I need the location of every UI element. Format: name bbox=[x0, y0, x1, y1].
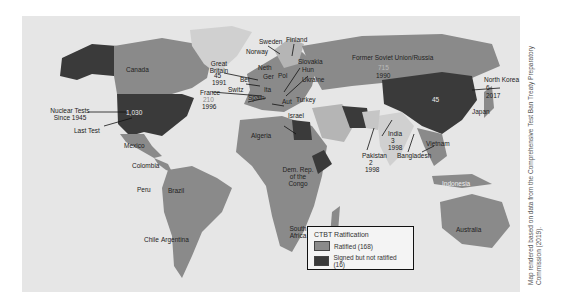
label-ita: Ita bbox=[264, 86, 271, 93]
label-algeria: Algeria bbox=[251, 132, 271, 139]
label-slovakia: Slovakia bbox=[298, 58, 323, 65]
france-count: 210 bbox=[203, 96, 214, 103]
india-year: 1998 bbox=[388, 144, 402, 151]
legend-item-signed: Signed but not ratified (16) bbox=[314, 254, 407, 268]
ratified-swatch bbox=[314, 241, 330, 251]
map-legend: CTBT Ratification Ratified (168) Signed … bbox=[307, 226, 414, 270]
label-last-test: Last Test bbox=[74, 127, 100, 134]
label-japan: Japan bbox=[472, 108, 490, 115]
label-ger: Ger bbox=[263, 73, 274, 80]
label-drc: Dem. Rep. of the Congo bbox=[280, 166, 316, 187]
label-argentina: Argentina bbox=[161, 236, 189, 243]
label-colombia: Colombia bbox=[132, 162, 159, 169]
ussr-count: 715 bbox=[378, 64, 389, 71]
map-shapes bbox=[22, 16, 520, 292]
legend-label: Signed but not ratified (16) bbox=[333, 254, 407, 268]
ussr-year: 1990 bbox=[376, 72, 390, 79]
signed-swatch bbox=[314, 256, 329, 266]
label-australia: Australia bbox=[456, 226, 481, 233]
label-spain: Spain bbox=[248, 94, 265, 101]
pakistan-year: 1998 bbox=[365, 166, 379, 173]
china-count: 45 bbox=[432, 96, 439, 103]
label-chile: Chile bbox=[144, 236, 159, 243]
usa-test-count: 1,030 bbox=[126, 109, 142, 116]
south-america-shape bbox=[162, 166, 232, 278]
label-indonesia: Indonesia bbox=[442, 180, 470, 187]
gb-year: 1991 bbox=[212, 79, 226, 86]
label-peru: Peru bbox=[137, 186, 151, 193]
source-credit: Map rendered based on data from the Comp… bbox=[527, 15, 543, 285]
label-sweden: Sweden bbox=[259, 38, 283, 45]
label-mexico: Mexico bbox=[124, 142, 145, 149]
india-count: 3 bbox=[391, 137, 395, 144]
north-korea-count: 6 bbox=[486, 84, 490, 91]
label-canada: Canada bbox=[126, 66, 149, 73]
australia-shape bbox=[440, 194, 510, 248]
north-korea-year: 2017 bbox=[486, 92, 500, 99]
label-hun: Hun bbox=[302, 66, 314, 73]
label-norway: Norway bbox=[246, 48, 268, 55]
gb-count: 45 bbox=[214, 72, 221, 79]
france-year: 1996 bbox=[202, 103, 216, 110]
alaska-shape bbox=[60, 44, 117, 80]
world-map: Canada Mexico Colombia Peru Brazil Chile… bbox=[22, 16, 520, 292]
label-switz: Switz bbox=[228, 86, 244, 93]
legend-title: CTBT Ratification bbox=[314, 231, 407, 238]
label-brazil: Brazil bbox=[168, 187, 184, 194]
ussr-name: Former Soviet Union/Russia bbox=[352, 54, 433, 61]
label-vietnam: Vietnam bbox=[426, 140, 450, 147]
label-bel: Bel bbox=[240, 76, 249, 83]
label-israel: Israel bbox=[288, 112, 304, 119]
pakistan-name: Pakistan bbox=[362, 152, 387, 159]
legend-label: Ratified (168) bbox=[334, 243, 373, 250]
label-bangladesh: Bangladesh bbox=[397, 152, 431, 159]
label-finland: Finland bbox=[286, 36, 307, 43]
label-neth: Neth bbox=[258, 64, 272, 71]
label-pol: Pol bbox=[278, 72, 287, 79]
north-korea-name: North Korea bbox=[484, 76, 519, 83]
france-name: France bbox=[200, 89, 220, 96]
pakistan-count: 2 bbox=[369, 159, 373, 166]
legend-item-ratified: Ratified (168) bbox=[314, 241, 407, 251]
india-name: India bbox=[388, 130, 402, 137]
label-nuclear-tests-since-1945: Nuclear Tests Since 1945 bbox=[50, 107, 90, 121]
label-aut: Aut bbox=[282, 98, 292, 105]
label-turkey: Turkey bbox=[296, 96, 316, 103]
label-ukraine: Ukraine bbox=[302, 76, 324, 83]
